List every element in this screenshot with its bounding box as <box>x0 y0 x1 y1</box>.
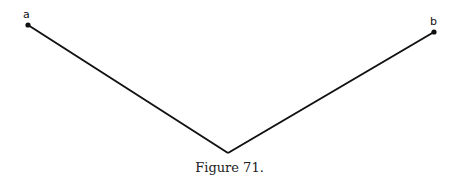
point-b <box>431 29 436 34</box>
segment-vertex-b <box>228 32 434 153</box>
point-a <box>25 22 30 27</box>
diagram-canvas <box>0 0 459 177</box>
label-b: b <box>430 16 437 27</box>
segment-a-vertex <box>28 25 228 153</box>
label-a: a <box>23 9 30 20</box>
figure-caption: Figure 71. <box>0 160 459 175</box>
